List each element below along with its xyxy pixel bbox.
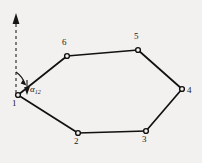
- vertex-marker-4[interactable]: [180, 87, 185, 92]
- vertex-marker-3[interactable]: [144, 129, 149, 134]
- vertex-label-5: 5: [134, 32, 139, 41]
- vertex-label-2: 2: [74, 137, 79, 146]
- vertex-label-1: 1: [12, 99, 17, 108]
- figure-canvas: [0, 0, 202, 163]
- traverse-figure: 1 2 3 4 5 6 α12: [0, 0, 202, 163]
- vertex-label-4: 4: [187, 86, 192, 95]
- vertex-marker-6[interactable]: [65, 54, 70, 59]
- vertex-marker-2[interactable]: [76, 131, 81, 136]
- angle-subscript: 12: [35, 89, 41, 95]
- vertex-marker-1[interactable]: [16, 93, 21, 98]
- angle-label-alpha-12: α12: [30, 85, 41, 94]
- vertex-marker-5[interactable]: [136, 48, 141, 53]
- vertex-label-6: 6: [62, 38, 67, 47]
- vertex-label-3: 3: [142, 135, 147, 144]
- figure-background: [0, 0, 202, 163]
